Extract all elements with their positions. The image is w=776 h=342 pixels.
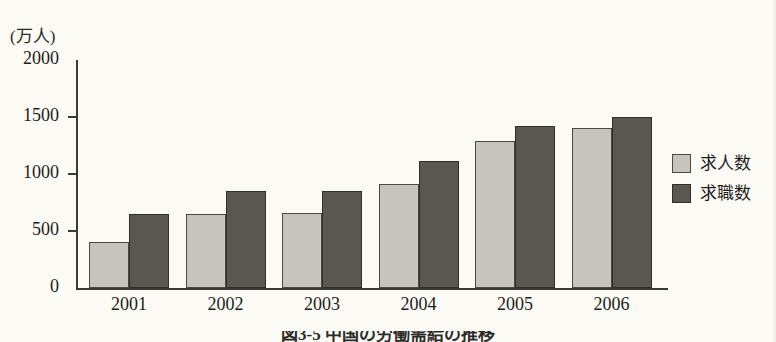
legend-label: 求人数 — [700, 154, 751, 173]
chart-figure: (万人) 0500100015002000 200120022003200420… — [0, 0, 776, 342]
y-axis-tick-label: 2000 — [23, 48, 59, 68]
bar-kyujinsu — [89, 242, 129, 288]
scan-edge-shading — [772, 0, 776, 342]
y-axis-tick-label: 0 — [50, 276, 59, 296]
light-gray-swatch — [672, 154, 691, 173]
bar-kyushokusu — [129, 214, 169, 288]
bar-kyushokusu — [612, 117, 652, 288]
bar-kyushokusu — [226, 191, 266, 288]
dark-gray-swatch — [672, 184, 691, 203]
bar-group — [186, 60, 266, 288]
y-axis-tick-label: 500 — [32, 219, 59, 239]
y-axis-tick: 500 — [68, 230, 77, 232]
x-axis-label: 2006 — [572, 294, 652, 314]
bar-kyushokusu — [419, 161, 459, 288]
y-axis-tick-label: 1000 — [23, 162, 59, 182]
x-axis-label: 2005 — [475, 294, 555, 314]
bar-group — [379, 60, 459, 288]
figure-caption-text: 図3-5 中国の労働需給の推移 — [0, 331, 776, 342]
bar-kyujinsu — [379, 184, 419, 288]
bar-kyujinsu — [186, 214, 226, 288]
bar-kyushokusu — [322, 191, 362, 288]
x-axis-label: 2003 — [282, 294, 362, 314]
figure-caption-clipped: 図3-5 中国の労働需給の推移 — [0, 331, 776, 342]
y-axis-tick: 2000 — [68, 59, 77, 61]
plot-area: 0500100015002000 20012002200320042005200… — [76, 60, 666, 288]
x-axis-label: 2001 — [89, 294, 169, 314]
bar-group — [282, 60, 362, 288]
x-axis-label: 2004 — [379, 294, 459, 314]
y-axis-unit-label: (万人) — [10, 22, 55, 47]
bar-kyujinsu — [475, 141, 515, 288]
legend-label: 求職数 — [700, 184, 751, 203]
legend-item: 求人数 — [672, 148, 776, 178]
y-axis-tick: 1500 — [68, 116, 77, 118]
y-axis-tick-label: 1500 — [23, 105, 59, 125]
x-axis-line — [76, 288, 668, 290]
y-axis-tick: 0 — [68, 287, 77, 289]
bar-group — [572, 60, 652, 288]
bar-group — [89, 60, 169, 288]
bar-kyujinsu — [282, 213, 322, 288]
bar-group — [475, 60, 555, 288]
chart-legend: 求人数求職数 — [672, 148, 776, 208]
y-axis-tick: 1000 — [68, 173, 77, 175]
bar-kyushokusu — [515, 126, 555, 288]
x-axis-label: 2002 — [186, 294, 266, 314]
bar-kyujinsu — [572, 128, 612, 288]
legend-item: 求職数 — [672, 178, 776, 208]
